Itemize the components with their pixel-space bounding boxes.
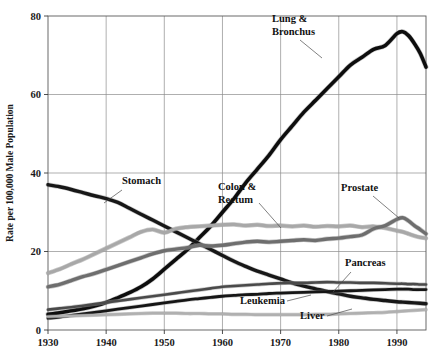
x-tick-label: 1950 bbox=[154, 337, 175, 348]
colon-rectum-label-line-1: Colon & bbox=[218, 181, 256, 192]
colon-rectum-label-line-2: Rectum bbox=[218, 194, 253, 205]
x-tick-label: 1970 bbox=[270, 337, 291, 348]
y-tick-label: 20 bbox=[31, 246, 42, 257]
leukemia-label-line-1: Leukemia bbox=[240, 295, 286, 306]
x-tick-label: 1930 bbox=[38, 337, 59, 348]
y-tick-label: 40 bbox=[31, 168, 42, 179]
y-tick-label: 0 bbox=[36, 325, 41, 336]
y-axis-title: Rate per 100,000 Male Population bbox=[5, 103, 15, 242]
liver-label-line-1: Liver bbox=[300, 310, 325, 321]
x-tick-label: 1960 bbox=[212, 337, 233, 348]
x-tick-label: 1980 bbox=[328, 337, 349, 348]
y-tick-label: 80 bbox=[31, 11, 42, 22]
lung-bronchus-label-line-2: Bronchus bbox=[272, 26, 315, 37]
x-tick-label: 1990 bbox=[386, 337, 407, 348]
prostate-label-line-1: Prostate bbox=[341, 182, 378, 193]
y-tick-label: 60 bbox=[31, 89, 42, 100]
x-tick-label: 1940 bbox=[96, 337, 117, 348]
chart-canvas: 0204060801930194019501960197019801990Rat… bbox=[0, 0, 440, 353]
pancreas-label-line-1: Pancreas bbox=[345, 257, 386, 268]
lung-bronchus-label-line-1: Lung & bbox=[272, 13, 308, 24]
cancer-mortality-chart: 0204060801930194019501960197019801990Rat… bbox=[0, 0, 440, 353]
stomach-label-line-1: Stomach bbox=[122, 175, 161, 186]
